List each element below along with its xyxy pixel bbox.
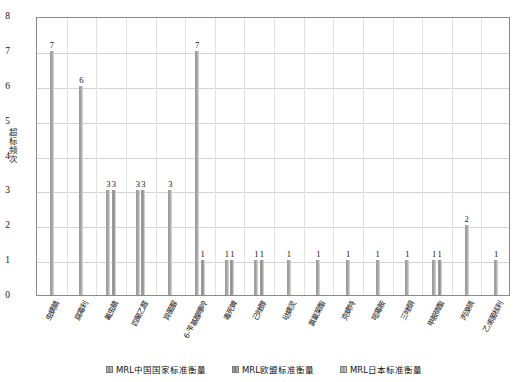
gridline [37, 158, 509, 159]
bar [168, 190, 172, 295]
bar [112, 190, 116, 295]
bar [316, 260, 320, 295]
bar [494, 260, 498, 295]
bar-value-label: 3 [112, 179, 116, 189]
category-divider [215, 18, 216, 295]
category-divider [481, 18, 482, 295]
x-tick-label: 嘧霉胺 [370, 300, 387, 322]
category-divider [422, 18, 423, 295]
bar [141, 190, 145, 295]
bar [50, 51, 54, 295]
legend-item[interactable]: MRL欧盟标准衡量 [232, 363, 314, 375]
bar-value-label: 1 [346, 249, 350, 259]
x-tick-label: 虫螨腈 [44, 300, 61, 322]
bar [201, 260, 205, 295]
category-divider [67, 18, 68, 295]
category-divider [333, 18, 334, 295]
legend-item[interactable]: MRL中国国家标准衡量 [106, 363, 206, 375]
x-tick-label: 克螨特 [340, 300, 357, 322]
x-tick-label: 氟虫腈 [103, 300, 120, 322]
x-tick-label: 氯氰菊酯 [308, 300, 328, 328]
bar-value-label: 1 [376, 249, 380, 259]
chart-legend: MRL中国国家标准衡量MRL欧盟标准衡量MRL日本标准衡量 [0, 363, 528, 375]
bar-value-label: 1 [201, 249, 205, 259]
bar [225, 260, 229, 295]
bar-value-label: 1 [494, 249, 498, 259]
bar-value-label: 1 [254, 249, 258, 259]
category-divider [393, 18, 394, 295]
bar [230, 260, 234, 295]
bar [79, 86, 83, 295]
x-tick-label: 三唑酮 [400, 300, 417, 322]
legend-swatch-icon [106, 366, 113, 373]
x-tick-label: 甲胺磷酯 [426, 300, 446, 328]
legend-swatch-icon [232, 366, 239, 373]
bar-value-label: 3 [141, 179, 145, 189]
bar [432, 260, 436, 295]
bar-value-label: 1 [405, 249, 409, 259]
x-tick-label: 乙烯菌核利 [482, 300, 505, 334]
bar-value-label: 1 [260, 249, 264, 259]
x-tick-label: 异菌脲 [163, 300, 180, 322]
category-divider [96, 18, 97, 295]
bar-value-label: 3 [136, 179, 140, 189]
gridline [37, 88, 509, 89]
gridline [37, 123, 509, 124]
category-divider [363, 18, 364, 295]
bar [376, 260, 380, 295]
gridline [37, 53, 509, 54]
bar-value-label: 1 [432, 249, 436, 259]
category-divider [304, 18, 305, 295]
x-tick-label: 哒螨灵 [281, 300, 298, 322]
category-divider [126, 18, 127, 295]
bar [106, 190, 110, 295]
legend-label: MRL中国国家标准衡量 [116, 363, 206, 375]
bar-value-label: 2 [464, 214, 468, 224]
bar-value-label: 1 [225, 249, 229, 259]
legend-item[interactable]: MRL日本标准衡量 [340, 363, 422, 375]
bar-value-label: 1 [438, 249, 442, 259]
x-tick-label: 四聚乙醛 [130, 300, 150, 328]
bar [287, 260, 291, 295]
bar [136, 190, 140, 295]
category-divider [156, 18, 157, 295]
category-divider [244, 18, 245, 295]
legend-label: MRL欧盟标准衡量 [242, 363, 314, 375]
legend-label: MRL日本标准衡量 [350, 363, 422, 375]
bar [195, 51, 199, 295]
bar [254, 260, 258, 295]
bar-value-label: 6 [79, 75, 83, 85]
x-tick-label: 6-苄基腺嘌呤 [183, 300, 209, 340]
bar-chart: 超标频次 012345678 7633333711111111111121 虫螨… [0, 0, 528, 382]
bar-value-label: 1 [287, 249, 291, 259]
x-tick-label: 己唑醇 [252, 300, 269, 322]
bar-value-label: 7 [195, 40, 199, 50]
bar [465, 225, 469, 295]
bar-value-label: 1 [230, 249, 234, 259]
x-tick-label: 丙溴磷 [459, 300, 476, 322]
x-tick-label: 腐霉利 [74, 300, 91, 322]
bar [438, 260, 442, 295]
category-divider [452, 18, 453, 295]
bar-value-label: 3 [168, 179, 172, 189]
x-tick-label: 毒死蜱 [222, 300, 239, 322]
category-divider [185, 18, 186, 295]
bar-value-label: 3 [106, 179, 110, 189]
category-divider [274, 18, 275, 295]
bar [346, 260, 350, 295]
bar [405, 260, 409, 295]
bar [260, 260, 264, 295]
plot-area: 7633333711111111111121 [36, 17, 510, 296]
legend-swatch-icon [340, 366, 347, 373]
bar-value-label: 7 [50, 40, 54, 50]
bar-value-label: 1 [316, 249, 320, 259]
